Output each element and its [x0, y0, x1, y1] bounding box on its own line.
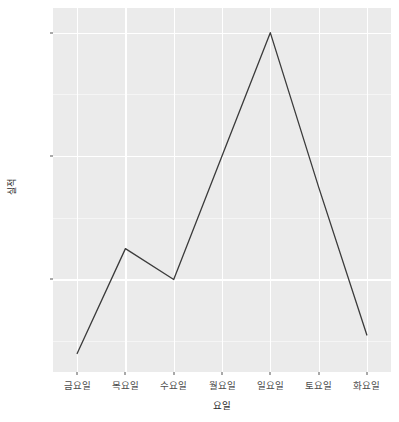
x-tick-label: 수요일 — [160, 378, 187, 392]
line-chart: 실적 80100120 금요일목요일수요일월요일일요일토요일화요일 요일 — [0, 0, 399, 422]
series-line-group — [53, 8, 391, 372]
x-tick-mark — [318, 372, 319, 375]
x-tick-mark — [125, 372, 126, 375]
x-tick-mark — [173, 372, 174, 375]
x-tick-label: 화요일 — [353, 378, 380, 392]
x-tick-mark — [366, 372, 367, 375]
x-tick-label: 월요일 — [209, 378, 236, 392]
x-axis-title-label: 요일 — [213, 400, 231, 411]
plot-panel — [53, 8, 391, 372]
x-tick-label: 토요일 — [305, 378, 332, 392]
x-tick-label: 목요일 — [112, 378, 139, 392]
x-axis-title: 요일 — [53, 398, 391, 412]
y-axis-title: 실적 — [0, 0, 22, 372]
x-tick-mark — [77, 372, 78, 375]
x-tick-mark — [270, 372, 271, 375]
y-axis-title-label: 실적 — [5, 178, 18, 194]
x-tick-mark — [222, 372, 223, 375]
x-tick-label: 일요일 — [257, 378, 284, 392]
series-line-실적 — [77, 33, 367, 354]
x-tick-label: 금요일 — [64, 378, 91, 392]
